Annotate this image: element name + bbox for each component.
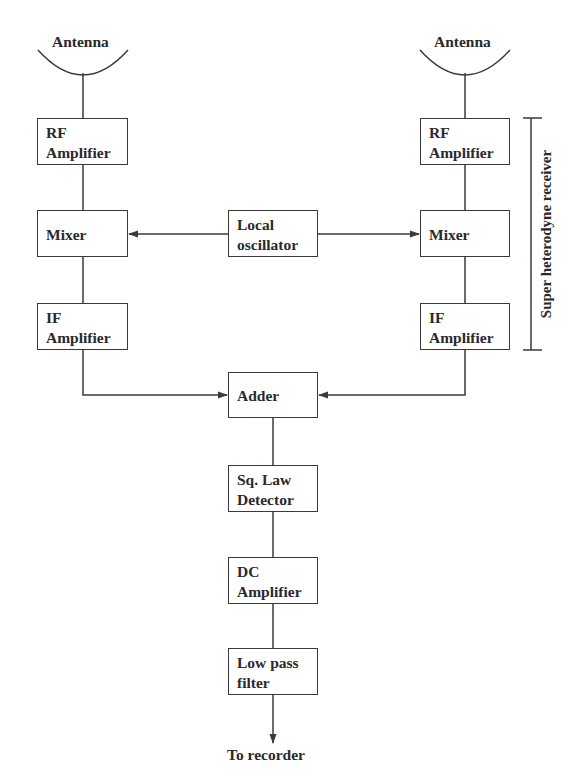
block-label: oscillator: [237, 235, 317, 255]
output-label: To recorder: [227, 746, 305, 764]
right-if-amplifier-block: IF Amplifier: [420, 303, 510, 350]
right-antenna-icon: [420, 50, 510, 75]
right-antenna-label: Antenna: [434, 33, 491, 51]
block-label: Low pass: [237, 653, 317, 673]
block-label: Amplifier: [429, 143, 509, 163]
block-label: Sq. Law: [237, 470, 317, 490]
dc-amplifier-block: DC Amplifier: [228, 557, 318, 604]
block-label: IF: [46, 308, 127, 328]
block-label: IF: [429, 308, 509, 328]
superheterodyne-bracket-label: Super heterodyne receiver: [538, 134, 558, 334]
sq-law-detector-block: Sq. Law Detector: [228, 465, 318, 512]
block-label: Local: [237, 215, 317, 235]
left-if-amplifier-block: IF Amplifier: [37, 303, 128, 350]
low-pass-filter-block: Low pass filter: [228, 648, 318, 695]
block-label: RF: [429, 123, 509, 143]
left-mixer-block: Mixer: [37, 210, 128, 257]
adder-block: Adder: [228, 372, 318, 418]
block-label: Adder: [237, 386, 317, 406]
block-label: filter: [237, 673, 317, 693]
right-mixer-block: Mixer: [420, 210, 510, 257]
local-oscillator-block: Local oscillator: [228, 210, 318, 257]
left-rf-amplifier-block: RF Amplifier: [37, 118, 128, 165]
block-label: Amplifier: [46, 328, 127, 348]
block-label: Mixer: [429, 225, 509, 245]
right-rf-amplifier-block: RF Amplifier: [420, 118, 510, 165]
left-antenna-label: Antenna: [52, 33, 109, 51]
block-label: Amplifier: [46, 143, 127, 163]
block-label: Amplifier: [429, 328, 509, 348]
left-antenna-icon: [38, 50, 128, 75]
block-label: Amplifier: [237, 582, 317, 602]
block-label: RF: [46, 123, 127, 143]
block-label: DC: [237, 562, 317, 582]
block-label: Mixer: [46, 225, 127, 245]
block-label: Detector: [237, 490, 317, 510]
